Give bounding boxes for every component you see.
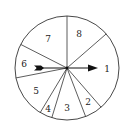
spinner-diagram: 1 2 3 4 5 6 7 8 (0, 0, 127, 127)
sector-label-1: 1 (104, 64, 110, 74)
sector-label-5: 5 (33, 86, 39, 96)
sector-label-7: 7 (45, 34, 51, 44)
sector-label-6: 6 (21, 59, 27, 69)
sector-label-2: 2 (85, 97, 91, 107)
sector-label-3: 3 (64, 103, 70, 113)
spinner-pivot (66, 67, 69, 70)
sector-label-8: 8 (76, 29, 82, 39)
sector-label-4: 4 (45, 104, 51, 114)
